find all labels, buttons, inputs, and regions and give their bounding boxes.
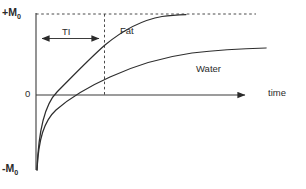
y-axis-min-label: -M0 — [2, 163, 18, 174]
y-axis-max-label: +M0 — [2, 7, 21, 18]
plot-canvas — [0, 0, 306, 189]
water-curve-label: Water — [196, 64, 221, 74]
fat-curve — [37, 15, 186, 170]
inversion-recovery-diagram: +M0 0 -M0 TI Fat Water time — [0, 0, 306, 189]
x-axis-label: time — [268, 88, 286, 98]
ti-label: TI — [62, 27, 70, 37]
water-curve — [37, 48, 266, 170]
y-axis-zero-label: 0 — [25, 89, 30, 99]
fat-curve-label: Fat — [120, 26, 134, 36]
